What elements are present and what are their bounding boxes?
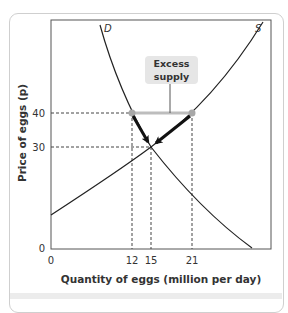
guide-lines <box>51 113 192 249</box>
callout-line-1: Excess <box>145 57 198 70</box>
y-tick-0: 0 <box>39 243 45 254</box>
excess-supply-callout: Excess supply <box>145 56 198 84</box>
demand-point-marker <box>129 110 136 117</box>
plot-frame <box>51 20 271 249</box>
x-axis-title: Quantity of eggs (million per day) <box>61 273 261 285</box>
y-tick-40: 40 <box>32 108 45 119</box>
y-axis-title: Price of eggs (p) <box>16 84 28 182</box>
x-tick-15: 15 <box>145 255 158 266</box>
arrow-demand-to-equilibrium <box>133 116 148 142</box>
supply-label: S <box>255 23 262 34</box>
callout-line-2: supply <box>145 70 198 83</box>
x-tick-21: 21 <box>186 255 199 266</box>
supply-curve <box>51 22 263 215</box>
x-tick-12: 12 <box>126 255 139 266</box>
demand-label: D <box>104 23 112 34</box>
arrow-supply-to-equilibrium <box>156 116 190 143</box>
y-tick-30: 30 <box>32 142 45 153</box>
x-tick-0: 0 <box>48 255 54 266</box>
